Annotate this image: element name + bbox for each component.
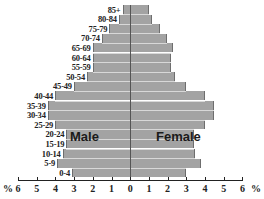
female-label: Female: [156, 129, 201, 144]
female-bar: [130, 43, 173, 52]
male-bar: [74, 82, 130, 91]
x-tick-mark: [18, 177, 19, 181]
age-group-label: 5-9: [15, 159, 55, 168]
female-bar: [130, 63, 171, 72]
x-tick-mark: [186, 177, 187, 181]
age-group-label: 15-19: [24, 140, 64, 149]
age-group-label: 80-84: [77, 15, 117, 24]
x-tick-mark: [55, 177, 56, 181]
x-tick-mark: [112, 177, 113, 181]
x-tick-label: 4: [198, 183, 212, 194]
age-group-label: 30-34: [6, 111, 46, 120]
male-label: Male: [70, 129, 99, 144]
male-bar: [93, 63, 130, 72]
x-tick-mark: [74, 177, 75, 181]
female-bar: [130, 53, 171, 62]
female-bar: [130, 149, 195, 158]
x-tick-label: 6: [235, 183, 249, 194]
male-bar: [72, 168, 130, 177]
female-bar: [130, 159, 201, 168]
x-tick-label: 1: [142, 183, 156, 194]
female-bar: [130, 168, 186, 177]
male-bar: [48, 101, 130, 110]
female-bar: [130, 34, 167, 43]
male-bar: [57, 159, 130, 168]
male-bar: [93, 53, 130, 62]
female-bar: [130, 111, 214, 120]
female-bar: [130, 101, 214, 110]
female-bar: [130, 15, 152, 24]
male-bar: [87, 72, 130, 81]
x-tick-mark: [224, 177, 225, 181]
row-separator: [93, 62, 172, 63]
row-separator: [93, 72, 172, 73]
row-separator: [93, 53, 172, 54]
row-separator: [119, 24, 153, 25]
age-group-label: 55-59: [51, 63, 91, 72]
x-tick-label: 2: [161, 183, 175, 194]
male-bar: [109, 24, 130, 33]
female-bar: [130, 24, 160, 33]
x-tick-label: 6: [11, 183, 25, 194]
x-tick-label: 1: [105, 183, 119, 194]
row-separator: [102, 43, 167, 44]
age-group-label: 45-49: [32, 82, 72, 91]
male-bar: [48, 111, 130, 120]
age-group-label: 40-44: [13, 92, 53, 101]
female-bar: [130, 120, 205, 129]
x-axis-unit-right: %: [251, 183, 261, 194]
center-axis-line: [130, 5, 131, 178]
x-tick-label: 2: [86, 183, 100, 194]
x-tick-label: 4: [48, 183, 62, 194]
female-bar: [130, 91, 205, 100]
x-axis-unit-left: %: [3, 183, 13, 194]
female-bar: [130, 72, 175, 81]
x-tick-label: 3: [67, 183, 81, 194]
female-bar: [130, 82, 186, 91]
x-tick-mark: [93, 177, 94, 181]
male-bar: [63, 149, 130, 158]
x-tick-mark: [242, 177, 243, 181]
x-tick-mark: [205, 177, 206, 181]
x-tick-label: 5: [217, 183, 231, 194]
male-bar: [55, 120, 130, 129]
male-bar: [123, 5, 130, 14]
x-tick-label: 0: [123, 183, 137, 194]
row-separator: [123, 14, 149, 15]
age-group-label: 20-24: [24, 130, 64, 139]
x-tick-mark: [168, 177, 169, 181]
age-group-label: 70-74: [60, 34, 100, 43]
male-bar: [119, 15, 130, 24]
x-tick-mark: [149, 177, 150, 181]
x-tick-mark: [37, 177, 38, 181]
population-pyramid-chart: 85+80-8475-7970-7465-6960-6455-5950-5445…: [0, 0, 264, 199]
age-group-label: 65-69: [51, 44, 91, 53]
x-tick-label: 3: [179, 183, 193, 194]
x-tick-label: 5: [30, 183, 44, 194]
male-bar: [93, 43, 130, 52]
female-bar: [130, 5, 149, 14]
x-tick-mark: [130, 177, 131, 181]
male-bar: [102, 34, 130, 43]
row-separator: [109, 33, 159, 34]
male-bar: [55, 91, 130, 100]
